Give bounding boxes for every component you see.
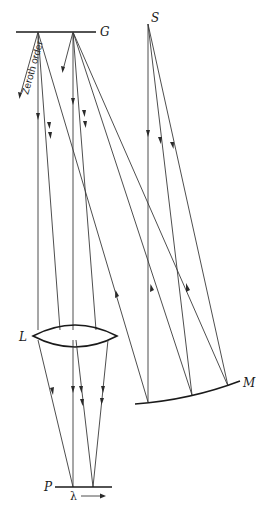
source-to-mirror-rays — [146, 24, 228, 402]
lens — [33, 325, 117, 347]
spectrograph-diagram: G S Zeroth order — [0, 0, 256, 511]
lens-to-plate-rays — [38, 340, 108, 487]
mirror-label: M — [242, 376, 256, 390]
source-label: S — [151, 11, 159, 25]
mirror — [135, 381, 240, 404]
grating-label: G — [100, 25, 110, 39]
grating-to-lens-rays — [36, 32, 96, 330]
plate-label: P — [43, 480, 53, 494]
lens-label: L — [18, 330, 27, 344]
wavelength-arrow-icon — [100, 494, 106, 499]
wavelength-label: λ — [70, 490, 77, 503]
zeroth-order-label: Zeroth order — [19, 39, 45, 96]
